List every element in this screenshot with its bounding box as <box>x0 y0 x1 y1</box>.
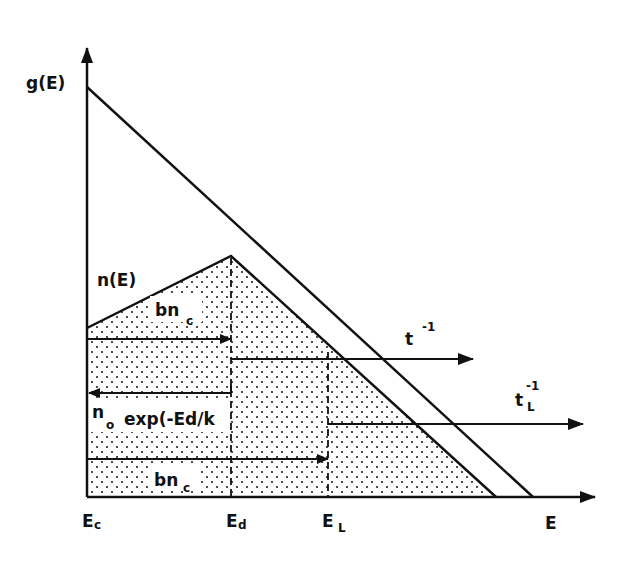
svg-text:E: E <box>226 511 238 531</box>
svg-text:E: E <box>322 511 334 531</box>
bnc-lower-label: bn c <box>150 465 198 495</box>
svg-text:o: o <box>106 418 114 432</box>
svg-text:n: n <box>92 402 104 422</box>
tick-label-el: E L <box>322 511 346 535</box>
n-e-filled-region <box>87 256 496 497</box>
svg-text:t: t <box>405 329 413 349</box>
svg-text:t: t <box>515 390 523 410</box>
svg-text:exp(-Ed/k: exp(-Ed/k <box>124 409 215 429</box>
tl-inverse-label: t L -1 <box>515 379 539 414</box>
svg-text:-1: -1 <box>526 379 539 393</box>
svg-text:bn: bn <box>154 470 178 490</box>
emission-expr-label: n o exp(-Ed/k <box>89 398 228 432</box>
svg-text:d: d <box>238 518 247 532</box>
svg-text:c: c <box>94 518 101 532</box>
t-inverse-label: t -1 <box>405 320 435 349</box>
svg-text:bn: bn <box>155 300 179 320</box>
diagram-canvas: g(E) E n(E) bn c n o exp(-Ed/k bn c t -1… <box>0 0 624 563</box>
svg-text:L: L <box>527 400 535 414</box>
n-e-label: n(E) <box>97 270 136 290</box>
y-axis-label: g(E) <box>26 73 65 93</box>
tick-label-ec: E c <box>82 511 101 532</box>
svg-text:L: L <box>338 521 346 535</box>
tick-label-ed: E d <box>226 511 247 532</box>
svg-text:-1: -1 <box>422 320 435 334</box>
svg-text:E: E <box>82 511 94 531</box>
x-axis-label: E <box>545 513 557 533</box>
svg-text:c: c <box>183 481 190 495</box>
svg-text:c: c <box>186 314 193 328</box>
